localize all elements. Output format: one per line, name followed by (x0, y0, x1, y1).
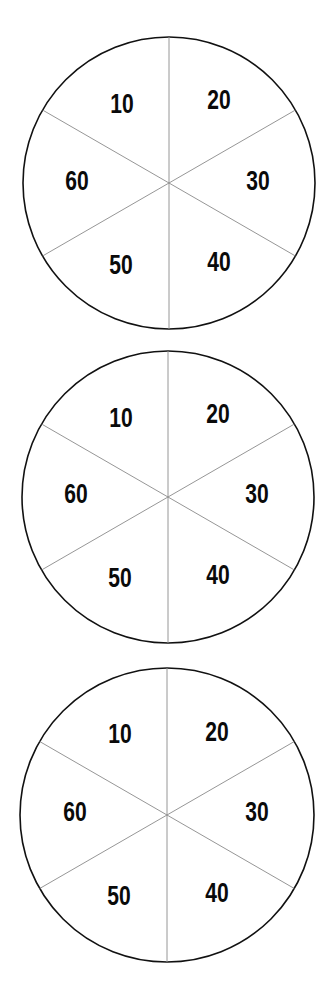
segment-label: 60 (63, 797, 86, 827)
wheel: 102030405060 (22, 351, 314, 643)
segment-label: 20 (206, 399, 229, 429)
wheel: 102030405060 (20, 668, 314, 962)
segment-label: 20 (207, 85, 230, 115)
segment-label: 30 (245, 479, 268, 509)
segment-label: 40 (205, 878, 228, 908)
segment-label: 50 (108, 563, 131, 593)
wheels-canvas: 102030405060102030405060102030405060 (0, 0, 336, 994)
segment-label: 10 (108, 719, 131, 749)
segment-label: 40 (206, 560, 229, 590)
segment-label: 10 (109, 403, 132, 433)
segment-label: 50 (109, 250, 132, 280)
wheel: 102030405060 (23, 37, 315, 329)
segment-label: 30 (246, 166, 269, 196)
segment-label: 20 (205, 717, 228, 747)
segment-label: 60 (64, 479, 87, 509)
segment-label: 50 (107, 881, 130, 911)
segment-label: 30 (245, 797, 268, 827)
segment-label: 10 (110, 89, 133, 119)
segment-label: 60 (65, 166, 88, 196)
segment-label: 40 (207, 247, 230, 277)
